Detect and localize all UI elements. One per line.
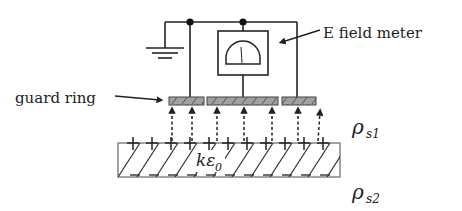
junction-dot-left	[186, 18, 193, 25]
rho-s1-label: ρ	[351, 115, 364, 139]
field-arrows	[172, 110, 320, 141]
e-field-meter	[218, 31, 268, 75]
junction-dot-center	[239, 18, 246, 25]
meter-label: E field meter	[323, 24, 423, 42]
permittivity-subscript: 0	[215, 161, 222, 174]
dielectric-layer: kε 0	[118, 137, 349, 177]
guard-ring-left	[169, 97, 204, 105]
guard-ring-pointer-arrow	[115, 96, 160, 100]
permittivity-label: kε	[196, 150, 215, 170]
guard-ring-label: guard ring	[15, 89, 96, 107]
diagram: E field meter guard ring	[0, 0, 462, 211]
rho-s2-subscript: s2	[366, 192, 380, 206]
rho-s1-subscript: s1	[366, 127, 380, 141]
guard-ring-plates	[169, 97, 316, 105]
ground-icon	[146, 48, 184, 58]
rho-s2-label: ρ	[351, 180, 364, 204]
sensing-electrode	[207, 97, 278, 105]
meter-pointer-arrow	[282, 30, 320, 42]
guard-ring-right	[282, 97, 316, 105]
